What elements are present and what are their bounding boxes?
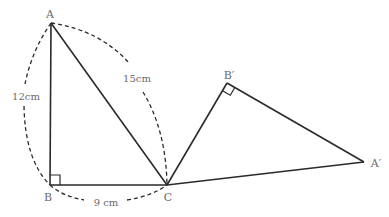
point-label-a: A — [46, 9, 54, 20]
measurement-label-bc: 9 cm — [94, 197, 119, 208]
point-label-b-prime: B′ — [224, 70, 235, 81]
segment-c-a-prime — [167, 162, 364, 185]
geometry-diagram — [0, 0, 389, 217]
triangle-a-prime-b-prime-c — [167, 83, 364, 185]
measurement-arcs — [24, 23, 167, 200]
arc-bc-right — [127, 185, 167, 200]
triangle-abc — [50, 23, 167, 185]
arc-ab-lower — [24, 106, 50, 185]
segment-ac — [51, 23, 167, 185]
arc-bc-left — [50, 185, 84, 200]
arc-ac-upper — [51, 23, 130, 64]
right-angle-mark-b — [50, 175, 60, 185]
point-label-c: C — [164, 192, 172, 203]
measurement-label-ac: 15cm — [123, 73, 151, 84]
point-label-a-prime: A′ — [371, 158, 381, 169]
measurement-label-ab: 12cm — [12, 91, 40, 102]
segment-b-prime-a-prime — [227, 83, 364, 162]
point-label-b: B — [44, 192, 52, 203]
segment-ab — [50, 23, 51, 185]
segment-c-b-prime — [167, 83, 227, 185]
arc-ab-upper — [25, 23, 51, 84]
arc-ac-lower — [143, 92, 167, 185]
